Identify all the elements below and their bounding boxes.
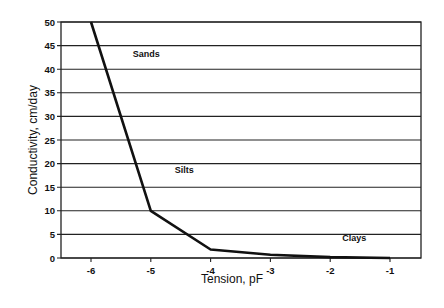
y-tick-label: 35 [44, 87, 55, 98]
y-tick-label: 20 [44, 158, 55, 169]
region-label-sands: Sands [133, 49, 160, 59]
gridlines [57, 22, 421, 258]
y-tick-label: 50 [44, 17, 55, 28]
x-tick-label: -2 [326, 265, 334, 276]
y-tick-label: 25 [44, 135, 55, 146]
region-label-silts: Silts [175, 165, 194, 175]
y-tick-label: 0 [50, 253, 55, 264]
x-tick-label: -6 [87, 265, 95, 276]
conductivity-chart: 05101520253035404550 -6-5-4-3-2-1 SandsS… [0, 0, 444, 308]
y-axis-ticks: 05101520253035404550 [44, 17, 55, 264]
y-tick-label: 5 [50, 229, 56, 240]
x-tick-label: -5 [147, 265, 156, 276]
y-tick-label: 30 [44, 111, 55, 122]
x-axis-title: Tension, pF [201, 272, 263, 286]
y-tick-label: 40 [44, 64, 55, 75]
x-tick-label: -1 [386, 265, 395, 276]
y-tick-label: 15 [44, 182, 55, 193]
region-label-clays: Clays [342, 233, 366, 243]
y-tick-label: 45 [44, 40, 55, 51]
region-labels: SandsSiltsClays [133, 49, 366, 243]
x-tick-label: -3 [266, 265, 274, 276]
y-tick-label: 10 [44, 205, 55, 216]
y-axis-title: Conductivity, cm/day [26, 85, 40, 195]
